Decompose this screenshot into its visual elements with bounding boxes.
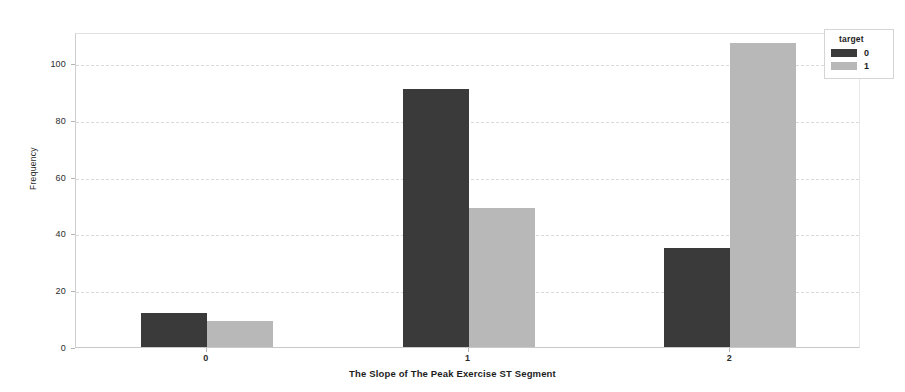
x-tick-mark <box>468 348 469 352</box>
plot-area <box>75 33 860 348</box>
y-tick-label: 100 <box>50 59 66 69</box>
legend-entry-label: 0 <box>864 48 869 58</box>
x-tick-label: 2 <box>727 353 732 363</box>
y-tick-label: 0 <box>61 343 66 353</box>
legend-title: target <box>839 34 888 44</box>
legend-swatch-icon <box>831 62 857 70</box>
y-tick-label: 40 <box>56 229 66 239</box>
bar-0-target-1 <box>207 321 273 347</box>
x-tick-label: 1 <box>465 353 470 363</box>
bar-2-target-1 <box>730 43 796 347</box>
bar-1-target-1 <box>469 208 535 347</box>
legend-entry-1[interactable]: 1 <box>831 60 888 72</box>
y-tick-label: 20 <box>56 286 66 296</box>
legend-entry-0[interactable]: 0 <box>831 47 888 59</box>
y-axis-label: Frequency <box>28 147 38 190</box>
bar-2-target-0 <box>664 248 730 347</box>
legend: target 01 <box>824 29 894 79</box>
x-tick-mark <box>206 348 207 352</box>
bar-0-target-0 <box>141 313 207 347</box>
bar-chart-figure: Frequency 020406080100 012 The Slope of … <box>0 0 905 392</box>
x-axis-label: The Slope of The Peak Exercise ST Segmen… <box>0 368 905 379</box>
y-tick-label: 80 <box>56 116 66 126</box>
legend-entry-label: 1 <box>864 61 869 71</box>
legend-entries: 01 <box>831 47 888 72</box>
x-tick-label: 0 <box>203 353 208 363</box>
bar-1-target-0 <box>403 89 469 347</box>
y-tick-label: 60 <box>56 173 66 183</box>
y-tick-mark <box>71 348 75 349</box>
legend-swatch-icon <box>831 49 857 57</box>
x-tick-mark <box>729 348 730 352</box>
